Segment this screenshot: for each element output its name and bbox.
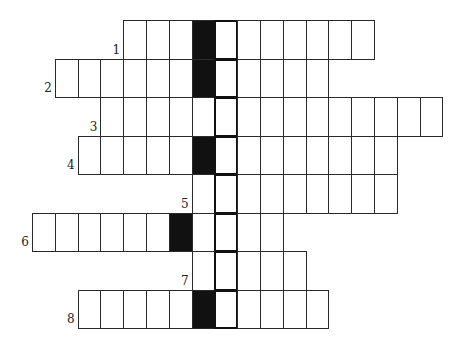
black-cell — [192, 20, 216, 60]
answer-cell[interactable] — [123, 136, 147, 176]
answer-cell[interactable] — [237, 20, 261, 60]
answer-cell[interactable] — [260, 174, 284, 214]
black-cell — [192, 136, 216, 176]
answer-cell[interactable] — [169, 136, 193, 176]
answer-cell[interactable] — [328, 97, 352, 137]
answer-cell[interactable] — [192, 97, 216, 137]
answer-cell[interactable] — [123, 97, 147, 137]
answer-cell[interactable] — [351, 97, 375, 137]
answer-cell[interactable] — [283, 59, 307, 99]
answer-cell[interactable] — [260, 97, 284, 137]
answer-cell[interactable] — [169, 20, 193, 60]
answer-cell[interactable] — [146, 136, 170, 176]
answer-cell[interactable] — [260, 290, 284, 330]
answer-cell[interactable] — [283, 290, 307, 330]
clue-number: 8 — [61, 313, 75, 325]
answer-cell[interactable] — [260, 136, 284, 176]
answer-cell[interactable] — [260, 251, 284, 291]
answer-cell[interactable] — [55, 213, 79, 253]
answer-cell[interactable] — [237, 251, 261, 291]
answer-cell[interactable] — [32, 213, 56, 253]
answer-cell[interactable] — [237, 174, 261, 214]
clue-number: 1 — [106, 44, 120, 56]
crossword-grid: 12345678 — [0, 0, 465, 339]
answer-cell[interactable] — [283, 251, 307, 291]
answer-cell[interactable] — [283, 136, 307, 176]
black-cell — [192, 290, 216, 330]
answer-cell[interactable] — [146, 20, 170, 60]
key-column-cell[interactable] — [214, 97, 238, 137]
answer-cell[interactable] — [192, 213, 216, 253]
answer-cell[interactable] — [237, 97, 261, 137]
answer-cell[interactable] — [374, 136, 398, 176]
answer-cell[interactable] — [306, 20, 330, 60]
answer-cell[interactable] — [169, 290, 193, 330]
key-column-cell[interactable] — [214, 136, 238, 176]
answer-cell[interactable] — [100, 59, 124, 99]
answer-cell[interactable] — [237, 290, 261, 330]
answer-cell[interactable] — [420, 97, 444, 137]
clue-number: 7 — [175, 275, 189, 287]
answer-cell[interactable] — [328, 20, 352, 60]
clue-number: 5 — [175, 198, 189, 210]
black-cell — [169, 213, 193, 253]
answer-cell[interactable] — [169, 59, 193, 99]
key-column-cell[interactable] — [214, 174, 238, 214]
answer-cell[interactable] — [351, 20, 375, 60]
answer-cell[interactable] — [78, 59, 102, 99]
clue-number: 6 — [15, 236, 29, 248]
answer-cell[interactable] — [146, 290, 170, 330]
answer-cell[interactable] — [283, 174, 307, 214]
answer-cell[interactable] — [237, 136, 261, 176]
key-column-cell[interactable] — [214, 59, 238, 99]
answer-cell[interactable] — [306, 59, 330, 99]
answer-cell[interactable] — [306, 136, 330, 176]
answer-cell[interactable] — [169, 97, 193, 137]
answer-cell[interactable] — [283, 97, 307, 137]
answer-cell[interactable] — [100, 213, 124, 253]
clue-number: 2 — [38, 82, 52, 94]
black-cell — [192, 59, 216, 99]
answer-cell[interactable] — [374, 97, 398, 137]
answer-cell[interactable] — [78, 136, 102, 176]
key-column-cell[interactable] — [214, 213, 238, 253]
answer-cell[interactable] — [351, 174, 375, 214]
answer-cell[interactable] — [397, 97, 421, 137]
answer-cell[interactable] — [78, 290, 102, 330]
key-column-cell[interactable] — [214, 251, 238, 291]
answer-cell[interactable] — [260, 213, 284, 253]
answer-cell[interactable] — [123, 20, 147, 60]
answer-cell[interactable] — [146, 213, 170, 253]
clue-number: 4 — [61, 159, 75, 171]
answer-cell[interactable] — [260, 20, 284, 60]
answer-cell[interactable] — [351, 136, 375, 176]
answer-cell[interactable] — [306, 97, 330, 137]
answer-cell[interactable] — [328, 136, 352, 176]
answer-cell[interactable] — [100, 97, 124, 137]
answer-cell[interactable] — [306, 174, 330, 214]
answer-cell[interactable] — [306, 290, 330, 330]
clue-number: 3 — [83, 121, 97, 133]
answer-cell[interactable] — [260, 59, 284, 99]
answer-cell[interactable] — [123, 59, 147, 99]
answer-cell[interactable] — [100, 136, 124, 176]
answer-cell[interactable] — [146, 97, 170, 137]
answer-cell[interactable] — [237, 213, 261, 253]
answer-cell[interactable] — [100, 290, 124, 330]
answer-cell[interactable] — [237, 59, 261, 99]
answer-cell[interactable] — [146, 59, 170, 99]
answer-cell[interactable] — [374, 174, 398, 214]
answer-cell[interactable] — [283, 20, 307, 60]
answer-cell[interactable] — [192, 174, 216, 214]
answer-cell[interactable] — [55, 59, 79, 99]
answer-cell[interactable] — [192, 251, 216, 291]
answer-cell[interactable] — [328, 174, 352, 214]
answer-cell[interactable] — [123, 213, 147, 253]
answer-cell[interactable] — [123, 290, 147, 330]
key-column-cell[interactable] — [214, 290, 238, 330]
key-column-cell[interactable] — [214, 20, 238, 60]
answer-cell[interactable] — [78, 213, 102, 253]
